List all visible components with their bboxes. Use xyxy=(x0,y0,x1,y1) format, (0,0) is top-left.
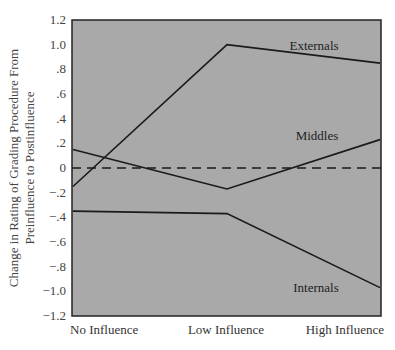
y-tick-label: 1.2 xyxy=(50,12,66,27)
y-tick-label: 0 xyxy=(60,160,67,175)
y-tick-label: −.6 xyxy=(49,234,67,249)
y-tick-label: −1.0 xyxy=(42,283,66,298)
x-category-label: Low Influence xyxy=(188,322,264,337)
x-axis-categories: No InfluenceLow InfluenceHigh Influence xyxy=(70,322,384,337)
x-category-label: No Influence xyxy=(70,322,138,337)
y-tick-label: .2 xyxy=(56,135,66,150)
line-chart: 1.21.0.8.6.4.20−.2−.4−.6−.8−1.0−1.2 Exte… xyxy=(0,0,395,350)
y-axis-title: Change in Rating of Grading Procedure Fr… xyxy=(6,49,37,287)
y-tick-label: .4 xyxy=(56,111,66,126)
series-label-middles: Middles xyxy=(296,128,339,143)
y-tick-label: .6 xyxy=(56,86,66,101)
series-label-internals: Internals xyxy=(293,280,338,295)
series-label-externals: Externals xyxy=(289,38,338,53)
y-tick-label: −1.2 xyxy=(42,308,66,323)
y-tick-label: 1.0 xyxy=(50,37,66,52)
y-axis-title-text: Change in Rating of Grading Procedure Fr… xyxy=(6,49,37,287)
y-tick-label: .8 xyxy=(56,61,66,76)
y-tick-label: −.4 xyxy=(49,209,67,224)
x-category-label: High Influence xyxy=(306,322,385,337)
y-tick-label: −.2 xyxy=(49,185,66,200)
y-tick-label: −.8 xyxy=(49,259,66,274)
y-axis-ticks: 1.21.0.8.6.4.20−.2−.4−.6−.8−1.0−1.2 xyxy=(42,12,66,323)
